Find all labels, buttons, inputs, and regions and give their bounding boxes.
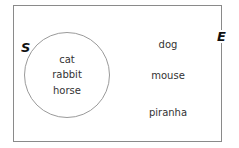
set-s-element-rabbit: rabbit: [52, 70, 82, 80]
universal-set-label: E: [216, 30, 227, 43]
outside-element-piranha: piranha: [149, 108, 187, 118]
outside-element-mouse: mouse: [151, 71, 185, 81]
venn-diagram: S E cat rabbit horse dog mouse piranha: [0, 0, 239, 148]
set-s-element-horse: horse: [53, 86, 81, 96]
set-s-element-cat: cat: [59, 55, 75, 65]
outside-element-dog: dog: [159, 40, 178, 50]
set-s-label: S: [21, 41, 30, 54]
